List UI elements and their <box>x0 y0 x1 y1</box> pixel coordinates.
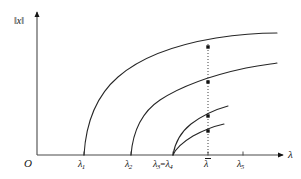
tick-label-lambda-bar: λ <box>204 159 208 169</box>
axes-group <box>37 12 283 155</box>
tick-label-lambda-3-equals-lambda-4: λ3=λ4 <box>153 159 173 171</box>
diagram-canvas <box>0 0 301 179</box>
tick-label-lambda-1: λ1 <box>78 159 85 171</box>
tick-label-lambda-2: λ2 <box>125 159 132 171</box>
origin-label: O <box>24 158 32 169</box>
branch-lambda-3 <box>173 106 228 155</box>
point-branch-1 <box>206 45 209 48</box>
tick-label-lambda-5: λ5 <box>237 159 244 171</box>
branch-lambda-2 <box>131 63 277 155</box>
x-axis-label: λ <box>288 149 293 160</box>
point-branch-4 <box>206 129 209 132</box>
y-axis-label: ‖x‖ <box>14 16 24 26</box>
branch-lambda-1 <box>84 33 277 155</box>
branch-curve-group <box>84 33 277 155</box>
point-branch-2 <box>206 80 209 83</box>
branch-lambda-4 <box>173 124 224 155</box>
point-branch-3 <box>206 114 209 117</box>
bifurcation-diagram: ‖x‖ λ O λ1λ2λ3=λ4λλ5 <box>0 0 301 179</box>
